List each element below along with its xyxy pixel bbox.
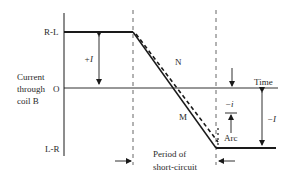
arc-label: Arc <box>224 133 238 143</box>
curve-m-label: M <box>179 112 187 122</box>
y-axis-label-line2: through <box>17 84 45 94</box>
top-level-label: R-L <box>44 27 59 37</box>
period-label-line2: short-circuit <box>153 162 197 172</box>
commutation-diagram: R-L O L-R Current through coil B Time N … <box>0 0 305 179</box>
minus-i-big-label: −I <box>267 114 277 124</box>
curve-m <box>133 32 216 148</box>
origin-label: O <box>53 84 60 94</box>
bottom-level-label: L-R <box>45 144 60 154</box>
plus-i-label: +I <box>84 54 94 64</box>
y-axis-label-line1: Current <box>17 72 45 82</box>
curve-n-label: N <box>175 57 182 67</box>
minus-i-small-label: −i <box>225 99 234 109</box>
period-label-line1: Period of <box>153 149 186 159</box>
time-label: Time <box>254 77 273 87</box>
y-axis-label-line3: coil B <box>17 96 39 106</box>
